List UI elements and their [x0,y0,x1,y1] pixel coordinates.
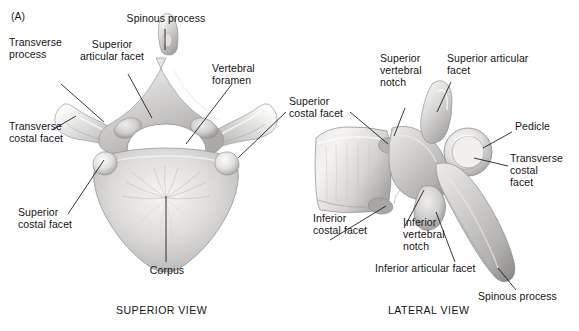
figure-canvas: (A) Transverse process Transverse costal… [0,0,579,331]
label-inferior-articular-facet: Inferior articular facet [375,262,476,274]
label-vertebral-foramen: Vertebral foramen [212,62,255,86]
label-superior-costal-facet-middle: Superior costal facet [289,95,343,119]
label-transverse-process: Transverse process [9,36,62,60]
label-superior-articular-facet-superior: Superior articular facet [62,38,162,62]
label-transverse-costal-facet-left: Transverse costal facet [9,120,63,144]
label-inferior-costal-facet: Inferior costal facet [313,212,367,236]
label-spinous-process-top: Spinous process [96,12,236,24]
label-superior-vertebral-notch: Superior vertebral notch [380,52,422,89]
label-transverse-costal-facet-right: Transverse costal facet [510,152,563,189]
label-inferior-vertebral-notch: Inferior vertebral notch [403,216,445,253]
label-pedicle: Pedicle [515,120,550,132]
label-spinous-process-bottom: Spinous process [478,290,557,302]
label-corpus: Corpus [132,264,202,276]
superior-costal-facet-right-shape [215,152,239,175]
label-superior-costal-facet-left: Superior costal facet [18,206,72,230]
label-superior-articular-facet-lateral: Superior articular facet [447,52,528,76]
caption-lateral-view: LATERAL VIEW [388,304,469,316]
caption-superior-view: SUPERIOR VIEW [116,304,207,316]
panel-tag: (A) [11,10,25,22]
